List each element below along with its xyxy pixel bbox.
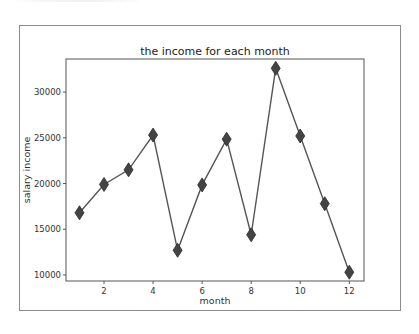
chart-title: the income for each month: [140, 45, 290, 58]
x-tick-label: 4: [150, 286, 155, 296]
plot-area: [66, 59, 364, 281]
line-chart: the income for each month 10000150002000…: [0, 0, 419, 334]
x-tick-label: 12: [344, 286, 355, 296]
y-tick-label: 25000: [34, 133, 61, 143]
x-axis-label: month: [200, 295, 231, 306]
x-tick-label: 8: [248, 286, 253, 296]
y-tick-label: 30000: [34, 87, 61, 97]
y-tick-label: 15000: [34, 224, 61, 234]
y-axis: 1000015000200002500030000: [34, 87, 66, 280]
y-tick-label: 10000: [34, 270, 61, 280]
y-axis-label: salary income: [21, 137, 32, 204]
x-axis: 24681012: [101, 281, 354, 296]
y-tick-label: 20000: [34, 179, 61, 189]
x-tick-label: 10: [295, 286, 306, 296]
x-tick-label: 2: [101, 286, 106, 296]
